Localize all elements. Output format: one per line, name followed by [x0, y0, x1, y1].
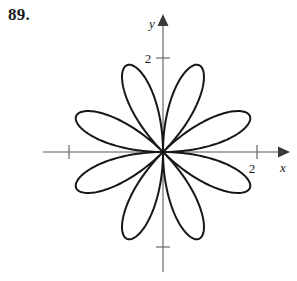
y-axis-label: y [147, 16, 155, 31]
x-tick-label-2: 2 [249, 161, 256, 176]
x-axis-arrow-icon [278, 147, 290, 158]
y-tick-label-2: 2 [145, 51, 152, 66]
x-axis-label: x [279, 160, 286, 175]
figure-container: 89. 2 2 x y [0, 0, 297, 281]
y-axis-arrow-icon [158, 14, 169, 26]
polar-rose-plot: 2 2 x y [0, 0, 297, 281]
